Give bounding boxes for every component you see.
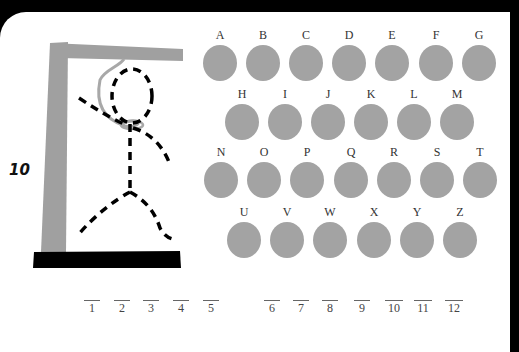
letter-button-o[interactable]: [247, 162, 281, 198]
letter-label-x: X: [354, 205, 394, 220]
letter-label-r: R: [374, 145, 414, 160]
letter-label-l: L: [394, 87, 434, 102]
blank-slot-7: 7: [293, 300, 309, 315]
letter-label-f: F: [416, 28, 456, 43]
gallows-beam: [50, 43, 183, 61]
letter-label-b: B: [243, 28, 283, 43]
letter-button-e[interactable]: [375, 45, 409, 81]
gallows-post: [41, 42, 68, 252]
letter-label-h: H: [222, 87, 262, 102]
letter-label-t: T: [460, 145, 500, 160]
letter-label-p: P: [287, 145, 327, 160]
letter-label-i: I: [265, 87, 305, 102]
blank-slot-12: 12: [445, 300, 463, 315]
letter-button-j[interactable]: [311, 104, 345, 140]
letter-button-h[interactable]: [225, 104, 259, 140]
blank-slot-1: 1: [84, 300, 100, 315]
blank-slot-10: 10: [385, 300, 403, 315]
figure-left-leg: [78, 192, 130, 235]
figure-right-arm: [133, 128, 169, 162]
letter-button-n[interactable]: [204, 162, 238, 198]
letter-label-j: J: [308, 87, 348, 102]
letter-button-d[interactable]: [332, 45, 366, 81]
letter-label-g: G: [459, 28, 499, 43]
letter-button-b[interactable]: [246, 45, 280, 81]
letter-button-g[interactable]: [462, 45, 496, 81]
letter-label-d: D: [329, 28, 369, 43]
letter-label-q: Q: [331, 145, 371, 160]
letter-button-l[interactable]: [397, 104, 431, 140]
letter-button-a[interactable]: [203, 45, 237, 81]
rope: [99, 59, 139, 127]
letter-button-v[interactable]: [270, 222, 304, 258]
gallows-base: [33, 251, 181, 268]
blank-slot-8: 8: [322, 300, 338, 315]
letter-button-q[interactable]: [334, 162, 368, 198]
blank-slot-6: 6: [264, 300, 280, 315]
letter-label-z: Z: [440, 205, 480, 220]
figure-right-leg: [130, 192, 173, 239]
blank-slot-5: 5: [203, 300, 219, 315]
letter-label-c: C: [286, 28, 326, 43]
letter-button-y[interactable]: [400, 222, 434, 258]
letter-button-m[interactable]: [440, 104, 474, 140]
letter-button-u[interactable]: [227, 222, 261, 258]
letter-button-i[interactable]: [268, 104, 302, 140]
letter-label-o: O: [244, 145, 284, 160]
figure-head: [112, 69, 152, 123]
letter-label-k: K: [351, 87, 391, 102]
blank-slot-2: 2: [114, 300, 130, 315]
blank-slot-4: 4: [173, 300, 189, 315]
blank-slot-3: 3: [143, 300, 159, 315]
letter-label-v: V: [267, 205, 307, 220]
letter-label-e: E: [372, 28, 412, 43]
letter-button-w[interactable]: [313, 222, 347, 258]
letter-button-t[interactable]: [463, 162, 497, 198]
blank-slot-11: 11: [414, 300, 432, 315]
letter-button-f[interactable]: [419, 45, 453, 81]
blank-slot-9: 9: [354, 300, 370, 315]
letter-button-r[interactable]: [377, 162, 411, 198]
letter-label-w: W: [310, 205, 350, 220]
letter-label-y: Y: [397, 205, 437, 220]
letter-button-z[interactable]: [443, 222, 477, 258]
letter-button-x[interactable]: [357, 222, 391, 258]
letter-button-c[interactable]: [289, 45, 323, 81]
letter-label-a: A: [200, 28, 240, 43]
letter-label-s: S: [417, 145, 457, 160]
letter-button-k[interactable]: [354, 104, 388, 140]
letter-label-m: M: [437, 87, 477, 102]
letter-button-p[interactable]: [290, 162, 324, 198]
letter-label-n: N: [201, 145, 241, 160]
letter-label-u: U: [224, 205, 264, 220]
letter-button-s[interactable]: [420, 162, 454, 198]
